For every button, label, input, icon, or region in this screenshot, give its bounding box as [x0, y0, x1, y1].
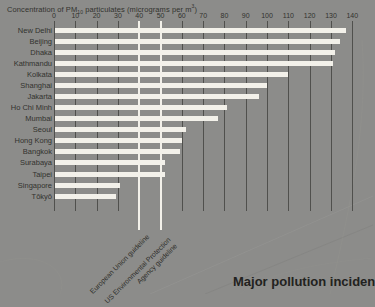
city-label: Singapore — [0, 181, 52, 190]
city-label: Mumbai — [0, 114, 52, 123]
city-label: Dhaka — [0, 48, 52, 57]
x-tick-label: 130 — [325, 12, 337, 19]
chart-title-suffix: ) — [194, 5, 197, 14]
city-label: Jakarta — [0, 92, 52, 101]
city-label: Seoul — [0, 125, 52, 134]
city-label: Bangkok — [0, 147, 52, 156]
x-tick-label: 120 — [304, 12, 316, 19]
city-label: Kolkata — [0, 70, 52, 79]
reference-line — [138, 21, 140, 230]
x-tick-label: 140 — [346, 12, 358, 19]
bar-mumbai — [55, 116, 218, 121]
chart-title: Concentration of PM10 particulates (micr… — [7, 3, 197, 15]
bar-jakarta — [55, 94, 259, 99]
city-label: Kathmandu — [0, 59, 52, 68]
x-tick-label: 100 — [261, 12, 273, 19]
bar-seoul — [55, 127, 186, 132]
bar-ho-chi-minh — [55, 105, 227, 110]
bar-tōkyō — [55, 194, 116, 199]
bar-beijing — [55, 39, 340, 44]
bar-dhaka — [55, 50, 335, 55]
chart-title-prefix: Concentration of PM — [7, 5, 77, 14]
x-tick-label: 80 — [221, 12, 229, 19]
chart-title-mid: particulates (micrograms per m — [83, 5, 192, 14]
city-label: Hong Kong — [0, 136, 52, 145]
city-label: Shanghai — [0, 81, 52, 90]
city-label: Taipei — [0, 170, 52, 179]
bar-kolkata — [55, 72, 288, 77]
grid-line — [352, 21, 353, 211]
x-tick-label: 110 — [283, 12, 294, 19]
x-tick-label: 90 — [242, 12, 250, 19]
bar-new-delhi — [55, 28, 346, 33]
city-label: Ho Chi Minh — [0, 103, 52, 112]
bar-taipei — [55, 172, 165, 177]
city-label: Surabaya — [0, 158, 52, 167]
reference-line-label-line: Agency guideline — [109, 242, 179, 307]
x-tick-label: 70 — [199, 12, 207, 19]
city-label: Beijing — [0, 37, 52, 46]
bar-surabaya — [55, 160, 165, 165]
map-caption: Major pollution inciden — [233, 274, 375, 289]
bar-kathmandu — [55, 61, 333, 66]
city-label: Tōkyō — [0, 192, 52, 201]
bar-hong-kong — [55, 138, 182, 143]
city-label: New Delhi — [0, 26, 52, 35]
bar-singapore — [55, 183, 120, 188]
reference-line — [160, 21, 162, 230]
